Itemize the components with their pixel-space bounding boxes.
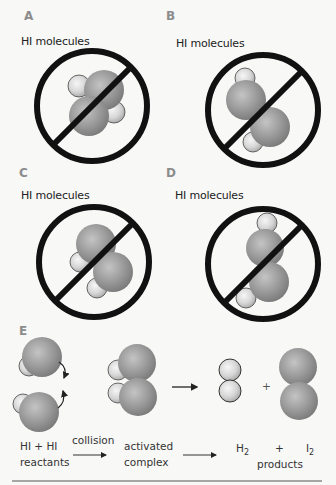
collision-label: collision (72, 433, 114, 448)
iodine-atom (69, 96, 109, 136)
reactant-hi-top (19, 337, 62, 377)
products-label: products (257, 457, 303, 472)
panel-letter-c: C (19, 166, 28, 180)
activated-complex (108, 344, 157, 416)
panel-caption-b: HI molecules (176, 37, 244, 50)
reactants-label: reactants (20, 455, 70, 470)
reactants-formula: HI + HI (20, 439, 57, 454)
panel-letter-b: B (166, 9, 175, 23)
activated-complex-label-2: complex (124, 455, 169, 470)
products-plus: + (275, 441, 284, 456)
panel-letter-a: A (24, 9, 33, 23)
panel-letter-d: D (166, 166, 176, 180)
h-subscript: 2 (244, 448, 249, 457)
product-i2-label: I2 (306, 441, 314, 460)
panel-letter-e: E (19, 324, 27, 338)
product-i2 (279, 348, 318, 420)
prohibition-sign-b (208, 55, 318, 165)
reactant-hi-bottom (13, 392, 59, 432)
prohibition-sign-a (37, 51, 147, 161)
panel-caption-d: HI molecules (175, 189, 243, 202)
prohibition-sign-c (39, 207, 149, 317)
panel-caption-a: HI molecules (21, 35, 89, 48)
h-symbol: H (236, 442, 244, 454)
diagram-plus-sign: + (262, 379, 271, 394)
reaction-diagram-graphics (0, 0, 336, 485)
product-h2-label: H2 (236, 441, 249, 460)
i-subscript: 2 (309, 448, 314, 457)
panel-caption-c: HI molecules (21, 189, 89, 202)
product-h2 (219, 359, 241, 402)
activated-complex-label-1: activated (124, 439, 173, 454)
collision-curved-arrows (58, 362, 65, 408)
